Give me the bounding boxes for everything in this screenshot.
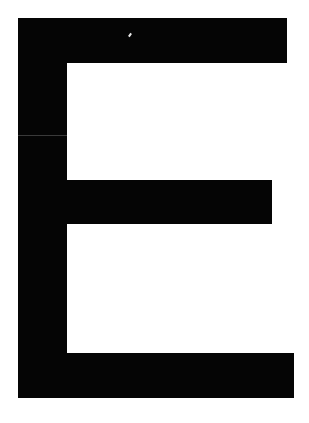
letter-e-bottom-bar [18, 353, 294, 398]
letter-e-glyph: E [0, 0, 309, 423]
scan-artifact-line [18, 135, 67, 136]
letter-e-top-bar [18, 18, 287, 63]
letter-e-middle-bar [18, 180, 272, 224]
